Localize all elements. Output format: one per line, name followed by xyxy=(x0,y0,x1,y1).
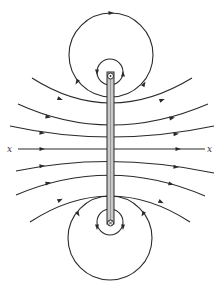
arrow-top-outer-top xyxy=(109,11,115,15)
arrow-above1-right xyxy=(159,97,166,103)
arrow-below1-left xyxy=(39,164,45,169)
arrow-axis-right xyxy=(176,147,182,151)
arrow-top-inner-right xyxy=(121,71,125,77)
field-line-below-1 xyxy=(16,161,214,173)
arrow-axis-left xyxy=(40,147,46,151)
arrow-above1-left xyxy=(57,96,64,102)
axis-label-left: x xyxy=(7,144,12,154)
bottom-conductor-symbol xyxy=(108,220,114,226)
top-conductor-symbol xyxy=(108,73,114,79)
arrow-below1-right xyxy=(173,165,179,170)
field-lines-diagram: x x xyxy=(0,0,221,293)
arrow-below3-right xyxy=(158,199,165,205)
arrow-top-inner-left xyxy=(95,70,99,76)
axis-label-right: x xyxy=(207,144,212,154)
arrow-below3-left xyxy=(57,197,64,203)
